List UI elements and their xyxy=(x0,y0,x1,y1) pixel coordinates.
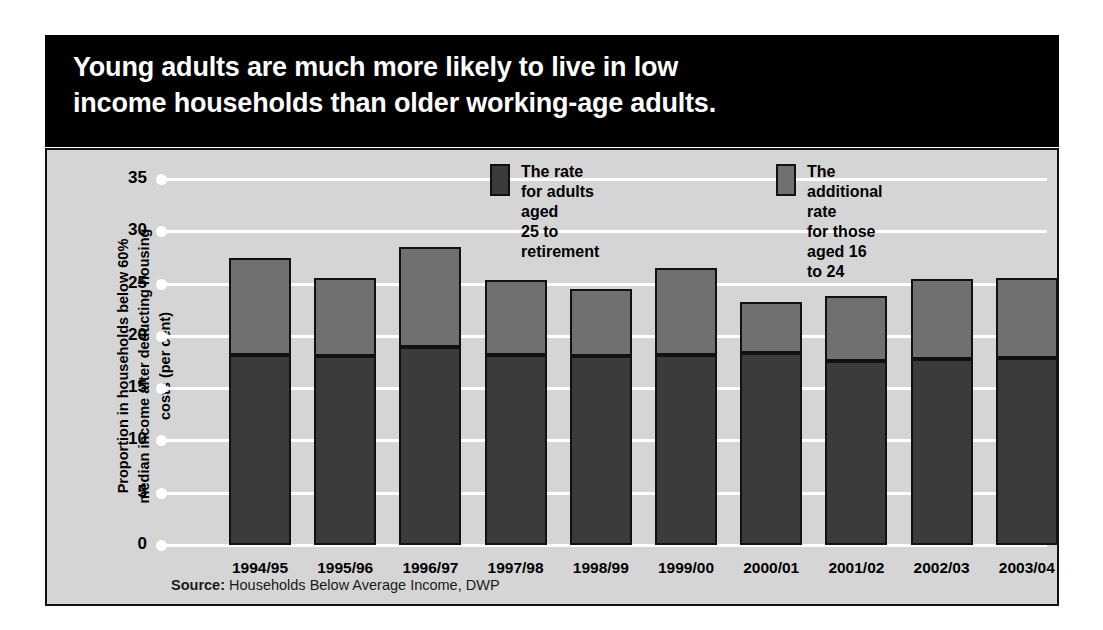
bar-segment-additional-16-to-24 xyxy=(570,289,632,356)
bar-stack xyxy=(655,268,717,545)
legend-label-adults-25-to-retirement: The rate for adults aged 25 to retiremen… xyxy=(521,162,599,262)
bar-stack xyxy=(485,280,547,545)
bar-segment-additional-16-to-24 xyxy=(996,278,1058,357)
bar-segment-additional-16-to-24 xyxy=(399,247,461,347)
plot-area: 051015202530351994/951995/961996/971997/… xyxy=(161,150,1047,608)
bar-segment-additional-16-to-24 xyxy=(911,279,973,358)
y-axis-tick-label: 25 xyxy=(47,273,147,293)
y-axis-tick-label: 0 xyxy=(47,534,147,554)
x-axis-tick-label: 2002/03 xyxy=(899,559,985,577)
y-axis-tick-label: 15 xyxy=(47,377,147,397)
bar-segment-additional-16-to-24 xyxy=(314,278,376,355)
figure: Young adults are much more likely to liv… xyxy=(0,0,1103,630)
bar-stack xyxy=(399,247,461,545)
y-axis-tick-dot xyxy=(156,226,167,237)
gridline xyxy=(161,230,1047,233)
y-axis-tick-label: 35 xyxy=(47,168,147,188)
x-axis-tick-label: 2000/01 xyxy=(728,559,814,577)
legend-swatch-adults-25-to-retirement xyxy=(490,164,510,196)
source-note: Source: Households Below Average Income,… xyxy=(171,577,500,593)
y-axis-tick-dot xyxy=(156,540,167,551)
y-axis-tick-label: 30 xyxy=(47,220,147,240)
source-label: Source: xyxy=(171,577,225,593)
x-axis-tick-label: 1994/95 xyxy=(217,559,303,577)
page-title: Young adults are much more likely to liv… xyxy=(73,49,1023,121)
x-axis-tick-label: 2001/02 xyxy=(813,559,899,577)
chart-panel: Proportion in households below 60% media… xyxy=(45,148,1059,606)
y-axis-tick-dot xyxy=(156,435,167,446)
bar-stack xyxy=(570,289,632,545)
x-axis-tick-label: 1996/97 xyxy=(387,559,473,577)
bar-segment-adults-25-to-retirement xyxy=(314,356,376,545)
legend-label-additional-16-to-24: The additional rate for those aged 16 to… xyxy=(807,162,883,282)
x-axis-tick-label: 1998/99 xyxy=(558,559,644,577)
legend-swatch-additional-16-to-24 xyxy=(776,164,796,196)
bar-segment-adults-25-to-retirement xyxy=(655,355,717,545)
title-banner: Young adults are much more likely to liv… xyxy=(45,35,1059,147)
bar-segment-additional-16-to-24 xyxy=(229,258,291,354)
y-axis-tick-label: 10 xyxy=(47,429,147,449)
bar-segment-adults-25-to-retirement xyxy=(825,361,887,545)
gridline xyxy=(161,178,1047,181)
x-axis-tick-label: 2003/04 xyxy=(984,559,1070,577)
y-axis-tick-dot xyxy=(156,488,167,499)
bar-stack xyxy=(740,302,802,545)
bar-segment-adults-25-to-retirement xyxy=(399,347,461,545)
bar-segment-additional-16-to-24 xyxy=(740,302,802,352)
bar-segment-additional-16-to-24 xyxy=(655,268,717,355)
bar-segment-additional-16-to-24 xyxy=(825,296,887,361)
y-axis-tick-label: 20 xyxy=(47,325,147,345)
bar-stack xyxy=(229,258,291,545)
x-axis-tick-label: 1999/00 xyxy=(643,559,729,577)
source-text: Households Below Average Income, DWP xyxy=(225,577,500,593)
bar-segment-adults-25-to-retirement xyxy=(996,358,1058,545)
y-axis-tick-label: 5 xyxy=(47,482,147,502)
x-axis-tick-label: 1997/98 xyxy=(473,559,559,577)
bar-stack xyxy=(314,278,376,545)
bar-segment-additional-16-to-24 xyxy=(485,280,547,354)
bar-segment-adults-25-to-retirement xyxy=(740,353,802,545)
y-axis-tick-dot xyxy=(156,383,167,394)
bar-stack xyxy=(825,296,887,545)
bar-stack xyxy=(911,279,973,545)
bar-segment-adults-25-to-retirement xyxy=(485,355,547,545)
y-axis-tick-dot xyxy=(156,331,167,342)
bar-segment-adults-25-to-retirement xyxy=(570,356,632,545)
bar-segment-adults-25-to-retirement xyxy=(911,359,973,545)
x-axis-tick-label: 1995/96 xyxy=(302,559,388,577)
bar-stack xyxy=(996,278,1058,545)
y-axis-tick-dot xyxy=(156,279,167,290)
y-axis-tick-dot xyxy=(156,174,167,185)
bar-segment-adults-25-to-retirement xyxy=(229,355,291,545)
